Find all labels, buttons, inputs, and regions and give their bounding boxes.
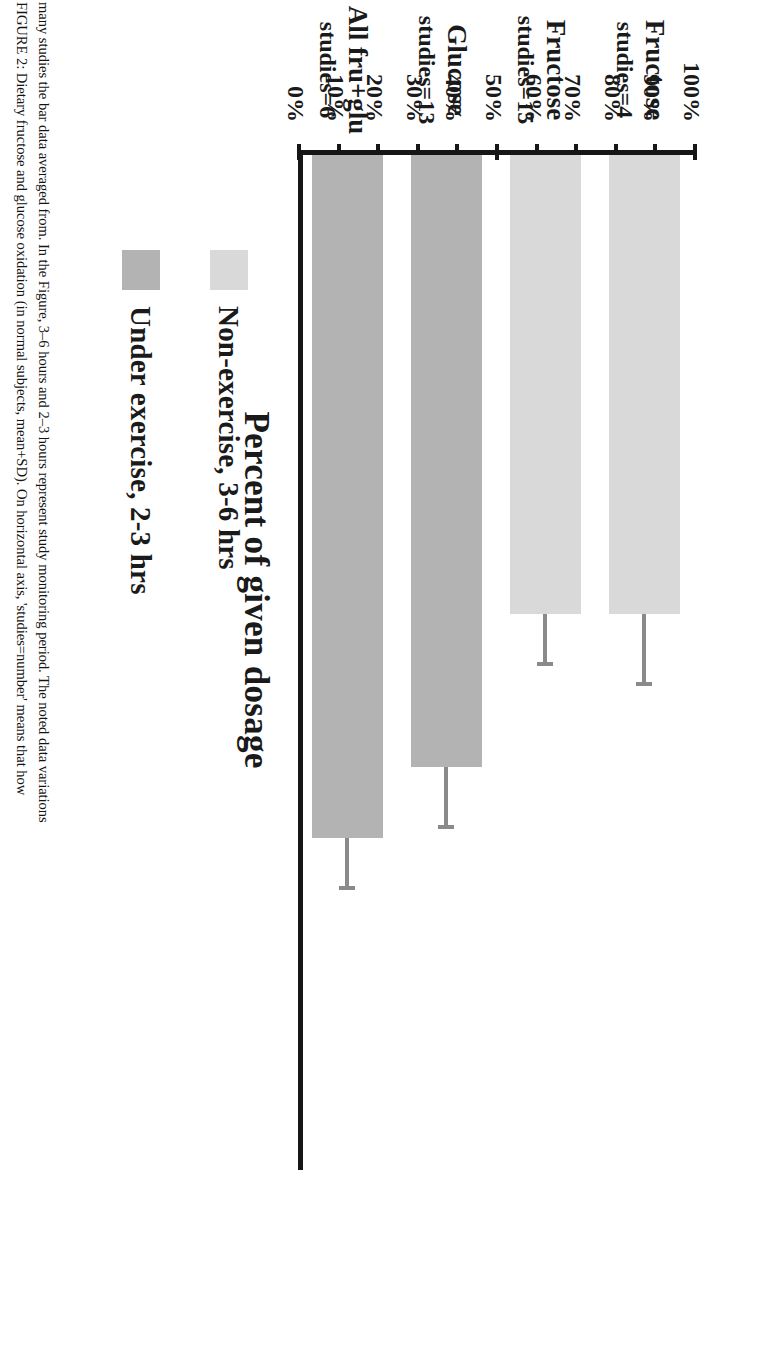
- category-studies: studies=4: [611, 0, 639, 140]
- bar: [312, 155, 383, 838]
- value-axis-tick-label: 50%: [480, 74, 507, 122]
- value-axis-tick-label: 0%: [282, 86, 309, 122]
- bar: [510, 155, 581, 614]
- caption-line-2: many studies the bar data averaged from.…: [35, 2, 52, 1350]
- figure-caption: FIGURE 2: Dietary fructose and glucose o…: [0, 0, 62, 1352]
- figure-image: Percent of given dosage 0%10%20%30%40%50…: [66, 0, 756, 1352]
- bar-chart: Percent of given dosage 0%10%20%30%40%50…: [66, 0, 756, 1352]
- legend-entry[interactable]: Under exercise, 2-3 hrs: [122, 250, 160, 595]
- plot-area: 0%10%20%30%40%50%60%70%80%90%100%Fructos…: [298, 150, 694, 1170]
- category-name: Glucose: [441, 0, 472, 140]
- legend-swatch-icon: [122, 250, 160, 290]
- value-axis-tick-label: 100%: [678, 62, 705, 122]
- category-label: Fructosestudies=15: [512, 0, 571, 140]
- error-bar: [445, 767, 449, 828]
- category-name: All fru+glu: [342, 0, 373, 140]
- legend-label: Non-exercise, 3-6 hrs: [213, 306, 246, 570]
- category-label: All fru+glustudies=6: [314, 0, 373, 140]
- category-name: Fructose: [540, 0, 571, 140]
- category-studies: studies=6: [314, 0, 342, 140]
- value-axis-tick: [693, 144, 697, 160]
- error-bar-cap: [538, 662, 554, 666]
- caption-line-1: FIGURE 2: Dietary fructose and glucose o…: [13, 2, 30, 1350]
- category-name: Fructose: [639, 0, 670, 140]
- value-axis-tick: [297, 144, 301, 160]
- bar: [609, 155, 680, 614]
- category-label: Glucosestudies=13: [413, 0, 472, 140]
- legend-swatch-icon: [210, 250, 248, 290]
- category-label: Fructosestudies=4: [611, 0, 670, 140]
- value-axis-line: [298, 150, 303, 1170]
- category-studies: studies=13: [413, 0, 441, 140]
- error-bar: [643, 614, 647, 685]
- chart-legend: Non-exercise, 3-6 hrsUnder exercise, 2-3…: [86, 210, 256, 1090]
- legend-entry[interactable]: Non-exercise, 3-6 hrs: [210, 250, 248, 570]
- legend-label: Under exercise, 2-3 hrs: [125, 306, 158, 595]
- value-axis-tick: [495, 144, 499, 160]
- category-studies: studies=15: [512, 0, 540, 140]
- error-bar-cap: [637, 682, 653, 686]
- bar: [411, 155, 482, 767]
- error-bar-cap: [340, 886, 356, 890]
- error-bar: [544, 614, 548, 665]
- error-bar: [346, 838, 350, 889]
- error-bar-cap: [439, 825, 455, 829]
